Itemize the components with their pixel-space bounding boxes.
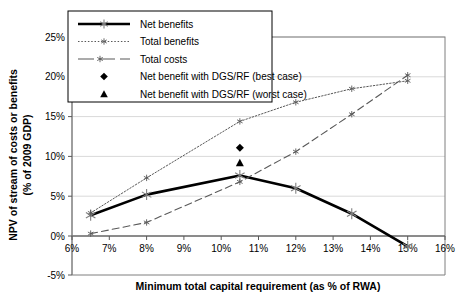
x-tick-label: 13% bbox=[323, 243, 343, 254]
lower-axis-frame bbox=[72, 236, 445, 275]
x-axis-title: Minimum total capital requirement (as % … bbox=[136, 280, 381, 292]
x-tick-label: 8% bbox=[139, 243, 154, 254]
y-tick-label: -5% bbox=[47, 270, 65, 281]
y-tick-label: 25% bbox=[45, 32, 65, 43]
y-tick-label: 10% bbox=[45, 151, 65, 162]
x-tick-label: 14% bbox=[360, 243, 380, 254]
x-tick-label: 10% bbox=[211, 243, 231, 254]
chart-legend: Net benefitsTotal benefitsTotal costsNet… bbox=[68, 11, 307, 102]
y-tick-label: 20% bbox=[45, 71, 65, 82]
x-tick-label: 6% bbox=[65, 243, 80, 254]
x-tick-label: 11% bbox=[249, 243, 268, 254]
legend-item-label: Net benefit with DGS/RF (best case) bbox=[140, 71, 302, 82]
legend-item-label: Net benefit with DGS/RF (worst case) bbox=[140, 89, 307, 100]
legend-item-label: Total costs bbox=[140, 54, 187, 65]
legend-item-label: Net benefits bbox=[140, 19, 193, 30]
y-tick-label: 15% bbox=[45, 111, 65, 122]
y-tick-label: 0% bbox=[51, 231, 66, 242]
y-tick-label: 5% bbox=[51, 191, 66, 202]
chart-container: -5%0%5%10%15%20%25% 6%7%8%9%10%11%12%13%… bbox=[0, 0, 476, 297]
y-axis-title-line1: NPV of stream of costs or benefits bbox=[7, 69, 19, 241]
x-tick-label: 7% bbox=[102, 243, 117, 254]
x-tick-label: 9% bbox=[177, 243, 192, 254]
x-tick-label: 16% bbox=[435, 243, 455, 254]
x-tick-label: 12% bbox=[286, 243, 306, 254]
chart-canvas: -5%0%5%10%15%20%25% 6%7%8%9%10%11%12%13%… bbox=[0, 0, 476, 297]
y-axis-title-line2: (% of 2009 GDP) bbox=[21, 114, 33, 195]
legend-item-label: Total benefits bbox=[140, 36, 199, 47]
